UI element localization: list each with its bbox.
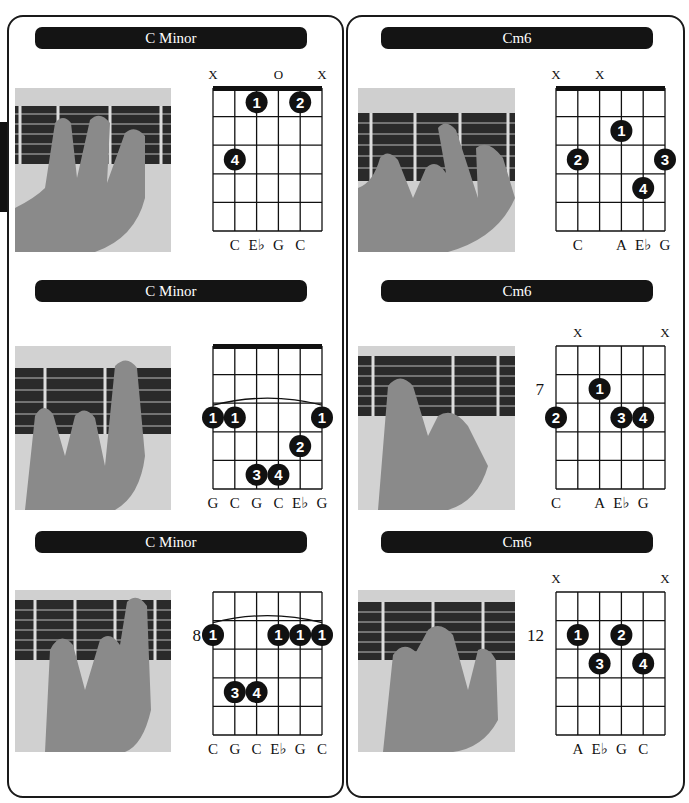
c-minor-photo-2 bbox=[15, 346, 171, 510]
finger-dot: 3 bbox=[246, 464, 268, 486]
finger-dot: 1 bbox=[311, 407, 333, 429]
svg-text:1: 1 bbox=[318, 409, 326, 426]
muted-string-marker: X bbox=[551, 571, 561, 586]
finger-dot: 1 bbox=[246, 91, 268, 113]
note-name-label: C bbox=[208, 741, 218, 757]
c-minor-chord-diagram-1: XOX124CE♭GC bbox=[213, 66, 342, 265]
cm6-title-3: Cm6 bbox=[381, 531, 653, 553]
svg-text:1: 1 bbox=[595, 380, 603, 397]
cm6-title-1: Cm6 bbox=[381, 27, 653, 49]
cm6-chord-diagram-2: XX71234CAE♭G bbox=[556, 324, 685, 523]
finger-dot: 4 bbox=[632, 177, 654, 199]
finger-dot: 2 bbox=[610, 624, 632, 646]
svg-text:4: 4 bbox=[639, 409, 648, 426]
finger-dot: 1 bbox=[610, 120, 632, 142]
svg-text:1: 1 bbox=[574, 626, 582, 643]
note-name-label: C bbox=[573, 237, 583, 253]
finger-dot: 2 bbox=[545, 407, 567, 429]
fret-number-label: 8 bbox=[193, 626, 202, 645]
finger-dot: 4 bbox=[632, 407, 654, 429]
muted-string-marker: X bbox=[660, 325, 670, 340]
note-name-label: G bbox=[251, 495, 262, 511]
svg-text:2: 2 bbox=[574, 151, 582, 168]
note-name-label: G bbox=[273, 237, 284, 253]
c-minor-photo-3 bbox=[15, 590, 171, 752]
chord-grid: XOX124CE♭GC bbox=[213, 66, 342, 261]
muted-string-marker: X bbox=[573, 325, 583, 340]
svg-text:3: 3 bbox=[617, 409, 625, 426]
muted-string-marker: X bbox=[660, 571, 670, 586]
svg-text:1: 1 bbox=[617, 122, 625, 139]
chord-grid: 111234GCGCE♭G bbox=[213, 324, 342, 519]
finger-dot: 2 bbox=[289, 435, 311, 457]
svg-text:3: 3 bbox=[252, 466, 260, 483]
finger-dot: 2 bbox=[567, 149, 589, 171]
note-name-label: C bbox=[317, 741, 327, 757]
cm6-title-2: Cm6 bbox=[381, 280, 653, 302]
svg-text:1: 1 bbox=[274, 626, 282, 643]
finger-dot: 4 bbox=[224, 149, 246, 171]
finger-dot: 3 bbox=[589, 653, 611, 675]
svg-text:2: 2 bbox=[296, 94, 304, 111]
barre-arc bbox=[213, 616, 322, 623]
finger-dot: 3 bbox=[654, 149, 676, 171]
finger-dot: 1 bbox=[202, 624, 224, 646]
svg-text:3: 3 bbox=[595, 655, 603, 672]
svg-text:1: 1 bbox=[209, 626, 217, 643]
svg-text:3: 3 bbox=[231, 684, 239, 701]
note-name-label: C bbox=[230, 237, 240, 253]
fret-number-label: 7 bbox=[536, 380, 545, 399]
chord-grid: 8111134CGCE♭GC bbox=[213, 570, 342, 765]
open-string-marker: O bbox=[274, 67, 283, 82]
note-name-label: C bbox=[551, 495, 561, 511]
note-name-label: E♭ bbox=[613, 495, 629, 511]
svg-text:1: 1 bbox=[318, 626, 326, 643]
muted-string-marker: X bbox=[208, 67, 218, 82]
note-name-label: C bbox=[230, 495, 240, 511]
svg-text:4: 4 bbox=[252, 684, 261, 701]
note-name-label: C bbox=[638, 741, 648, 757]
svg-text:4: 4 bbox=[639, 655, 648, 672]
finger-dot: 2 bbox=[289, 91, 311, 113]
svg-text:2: 2 bbox=[617, 626, 625, 643]
note-name-label: C bbox=[295, 237, 305, 253]
note-name-label: A bbox=[616, 237, 627, 253]
note-name-label: A bbox=[594, 495, 605, 511]
muted-string-marker: X bbox=[317, 67, 327, 82]
chord-grid: XX1234CAE♭G bbox=[556, 66, 685, 261]
cm6-photo-3 bbox=[358, 590, 515, 752]
cm6-chord-diagram-1: XX1234CAE♭G bbox=[556, 66, 685, 265]
note-name-label: A bbox=[572, 741, 583, 757]
svg-text:4: 4 bbox=[231, 151, 240, 168]
muted-string-marker: X bbox=[551, 67, 561, 82]
finger-dot: 1 bbox=[289, 624, 311, 646]
finger-dot: 1 bbox=[589, 378, 611, 400]
note-name-label: G bbox=[660, 237, 671, 253]
note-name-label: G bbox=[295, 741, 306, 757]
note-name-label: E♭ bbox=[248, 237, 264, 253]
finger-dot: 1 bbox=[267, 624, 289, 646]
c-minor-title-3: C Minor bbox=[35, 531, 307, 553]
svg-text:4: 4 bbox=[274, 466, 283, 483]
cm6-chord-diagram-3: XX121234AE♭GC bbox=[556, 570, 685, 769]
svg-text:3: 3 bbox=[661, 151, 669, 168]
svg-text:1: 1 bbox=[252, 94, 260, 111]
finger-dot: 3 bbox=[224, 681, 246, 703]
barre-arc bbox=[213, 398, 322, 405]
note-name-label: G bbox=[229, 741, 240, 757]
fret-number-label: 12 bbox=[527, 626, 544, 645]
note-name-label: G bbox=[208, 495, 219, 511]
note-name-label: E♭ bbox=[591, 741, 607, 757]
svg-text:4: 4 bbox=[639, 180, 648, 197]
finger-dot: 4 bbox=[632, 653, 654, 675]
finger-dot: 1 bbox=[311, 624, 333, 646]
note-name-label: E♭ bbox=[292, 495, 308, 511]
svg-text:1: 1 bbox=[209, 409, 217, 426]
finger-dot: 1 bbox=[567, 624, 589, 646]
note-name-label: E♭ bbox=[635, 237, 651, 253]
finger-dot: 4 bbox=[267, 464, 289, 486]
svg-text:1: 1 bbox=[296, 626, 304, 643]
c-minor-title-1: C Minor bbox=[35, 27, 307, 49]
note-name-label: G bbox=[638, 495, 649, 511]
svg-text:2: 2 bbox=[296, 438, 304, 455]
